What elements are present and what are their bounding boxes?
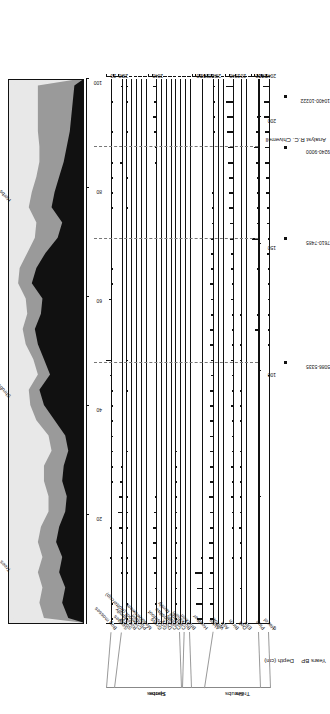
taxon-bar (210, 603, 214, 605)
taxon-bar (212, 223, 215, 225)
taxon-bar (202, 527, 203, 529)
taxon-trace-dot (246, 101, 247, 103)
taxon-bar (156, 284, 157, 286)
taxon-bar (241, 192, 242, 194)
taxon-bar (171, 131, 172, 133)
taxon-bar (241, 436, 242, 438)
taxon-bar (127, 557, 128, 559)
taxon-bar (202, 451, 203, 453)
taxon-bar (240, 344, 242, 346)
taxon-panel (158, 79, 162, 624)
taxon-bar (127, 207, 128, 209)
taxon-trace-dot (131, 192, 132, 194)
taxon-trace-dot (246, 207, 247, 209)
taxon-bar (210, 390, 214, 392)
taxon-bar (231, 496, 234, 498)
taxon-trace-dot (141, 451, 142, 453)
taxon-bar (202, 436, 203, 438)
taxon-trace-dot (246, 299, 247, 301)
taxon-bar (210, 572, 215, 574)
taxon-bar (156, 466, 157, 468)
summary-area-svg (9, 79, 84, 623)
taxon-bar (240, 420, 242, 422)
taxon-trace-dot (171, 284, 172, 286)
depth-axis-tick-label: 200 (268, 118, 276, 124)
taxon-trace-dot (218, 618, 219, 620)
taxon-bar (210, 284, 214, 286)
zone-boundary-line (94, 362, 258, 363)
taxon-bar (264, 101, 271, 103)
taxon-bar (265, 131, 271, 133)
taxon-bar (156, 177, 157, 179)
taxon-trace-dot (131, 207, 132, 209)
taxon-bar (122, 329, 123, 331)
radiocarbon-date-marker (284, 95, 287, 98)
taxon-bar (146, 557, 147, 559)
taxon-bar (267, 253, 270, 255)
taxon-bar (156, 390, 157, 392)
taxon-bar (146, 527, 147, 529)
taxon-trace-dot (171, 481, 172, 483)
taxon-bar (202, 481, 203, 483)
taxon-bar (202, 116, 203, 118)
taxon-axis-spine (106, 76, 112, 77)
taxon-bar (153, 557, 157, 559)
taxon-trace-dot (190, 405, 191, 407)
group-label: Spores (147, 691, 166, 697)
taxon-bar (241, 162, 242, 164)
taxon-bar (268, 329, 270, 331)
taxon-baseline (136, 79, 137, 624)
taxon-bar (232, 344, 234, 346)
taxon-bar (110, 527, 112, 529)
taxon-bar (232, 375, 234, 377)
taxon-bar (202, 192, 203, 194)
taxon-trace-dot (190, 603, 191, 605)
taxon-bar (233, 572, 234, 574)
taxon-bar (268, 344, 270, 346)
taxon-trace-dot (161, 527, 162, 529)
taxon-bar (240, 512, 242, 514)
taxon-baseline (166, 79, 167, 624)
taxon-bar (112, 101, 113, 103)
taxon-trace-dot (246, 542, 247, 544)
radiocarbon-date-label: 9240-9000 (306, 149, 330, 155)
taxon-bar (269, 360, 271, 362)
taxon-bar (171, 101, 172, 103)
taxon-bar (269, 588, 270, 590)
taxon-axis-spine (243, 76, 247, 77)
taxon-bar (212, 207, 214, 209)
taxon-bar (156, 481, 157, 483)
taxon-bar (122, 405, 123, 407)
taxon-bar (146, 131, 147, 133)
taxon-bar (233, 542, 234, 544)
taxon-bar (223, 603, 224, 605)
taxon-bar (202, 420, 203, 422)
taxon-baseline (218, 79, 219, 624)
taxon-trace-dot (223, 512, 224, 514)
taxon-panel (106, 79, 112, 624)
taxon-trace-dot (171, 588, 172, 590)
taxon-bar (112, 451, 113, 453)
taxon-trace-dot (171, 329, 172, 331)
taxon-bar (269, 618, 270, 620)
taxon-bar (122, 177, 123, 179)
taxon-trace-dot (146, 375, 147, 377)
taxon-trace-dot (246, 588, 247, 590)
taxon-bar (226, 86, 234, 88)
taxon-bar (202, 344, 203, 346)
taxon-bar (240, 405, 242, 407)
taxon-panel (129, 79, 133, 624)
taxon-trace-dot (246, 177, 247, 179)
taxon-bar (231, 466, 234, 468)
taxon-bar (211, 375, 215, 377)
taxon-trace-dot (246, 496, 247, 498)
taxon-panel (216, 79, 220, 624)
group-brace (182, 687, 270, 688)
taxon-trace-dot (185, 405, 186, 407)
taxon-trace-dot (131, 177, 132, 179)
taxon-bar (127, 572, 128, 574)
taxon-bar (241, 253, 242, 255)
taxon-bar (202, 86, 203, 88)
taxon-bar (201, 557, 203, 559)
taxon-bar (232, 420, 234, 422)
